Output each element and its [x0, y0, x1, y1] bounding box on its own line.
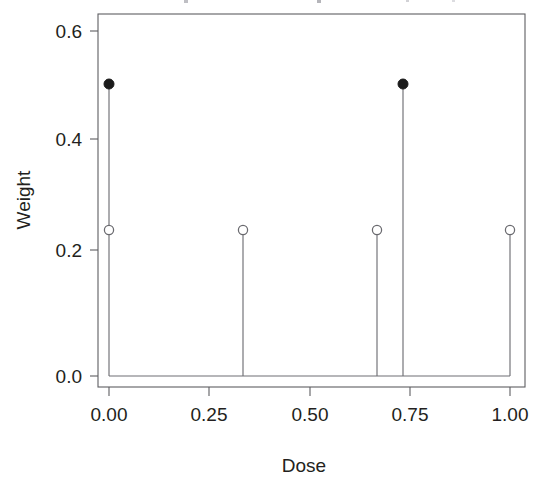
chart-figure: 0.6 0.4 0.2 0.0 0.00 0.25 0.50 0.75 1.00… — [0, 0, 560, 492]
x-tick-label-1: 0.25 — [191, 404, 228, 425]
data-point-open-0 — [104, 225, 113, 234]
filled-circle-markers — [104, 79, 408, 89]
x-tick-label-3: 0.75 — [392, 404, 429, 425]
y-tick-label-2: 0.2 — [56, 240, 82, 261]
x-axis-title: Dose — [282, 455, 326, 476]
open-circle-markers — [104, 225, 514, 234]
x-tick-label-0: 0.00 — [91, 404, 128, 425]
y-tick-label-3: 0.0 — [56, 366, 82, 387]
data-point-filled-1 — [398, 79, 408, 89]
x-tick-label-4: 1.00 — [492, 404, 529, 425]
data-point-open-2 — [372, 225, 381, 234]
y-tick-label-0: 0.6 — [56, 21, 82, 42]
plot-frame — [98, 14, 525, 387]
x-axis-ticks — [109, 387, 510, 396]
clipped-title-remnant — [184, 0, 455, 3]
data-point-filled-0 — [104, 79, 114, 89]
y-tick-label-1: 0.4 — [56, 129, 83, 150]
stem-plot-svg: 0.6 0.4 0.2 0.0 0.00 0.25 0.50 0.75 1.00… — [0, 0, 560, 492]
y-axis-title: Weight — [13, 170, 34, 230]
x-tick-label-2: 0.50 — [292, 404, 329, 425]
data-point-open-1 — [238, 225, 247, 234]
data-point-open-3 — [505, 225, 514, 234]
y-axis-ticks — [90, 31, 98, 376]
stem-lines — [109, 84, 510, 376]
